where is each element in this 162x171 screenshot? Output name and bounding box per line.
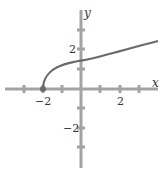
x-tick-label-neg2: −2 bbox=[35, 95, 51, 108]
start-point-dot bbox=[40, 86, 46, 92]
x-axis-label: x bbox=[152, 76, 159, 90]
sqrt-curve bbox=[43, 41, 158, 89]
y-tick-label-pos2: 2 bbox=[69, 43, 76, 56]
function-graph: x y −2 2 2 −2 bbox=[0, 0, 162, 171]
y-tick-label-neg2: −2 bbox=[63, 122, 79, 135]
y-axis-label: y bbox=[83, 6, 91, 20]
x-tick-label-pos2: 2 bbox=[117, 95, 124, 108]
